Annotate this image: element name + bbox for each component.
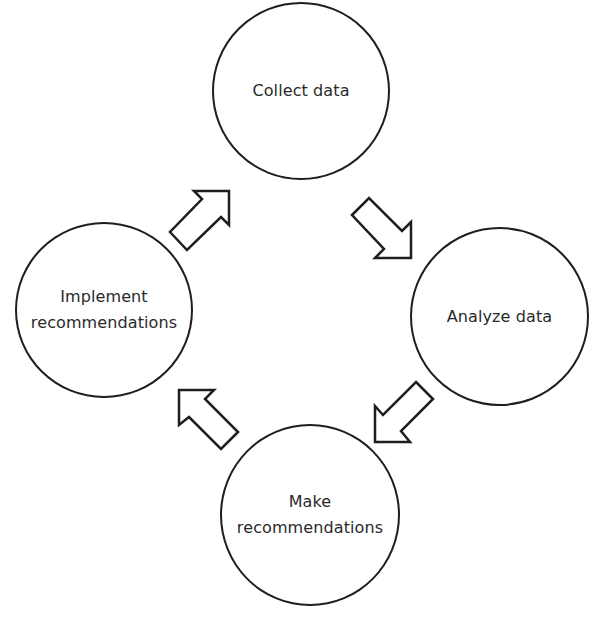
cycle-diagram: Collect data Analyze data Make recommend… <box>0 0 601 621</box>
arrow-up-left-icon <box>160 380 260 480</box>
node-label: Analyze data <box>447 304 552 330</box>
node-label: Implement recommendations <box>31 284 177 336</box>
arrow-down-left-icon <box>350 380 450 480</box>
arrow-up-right-icon <box>160 180 260 280</box>
node-collect-data: Collect data <box>212 2 390 180</box>
node-label: Collect data <box>252 78 349 104</box>
arrow-down-right-icon <box>340 190 440 290</box>
node-label: Make recommendations <box>237 489 383 541</box>
